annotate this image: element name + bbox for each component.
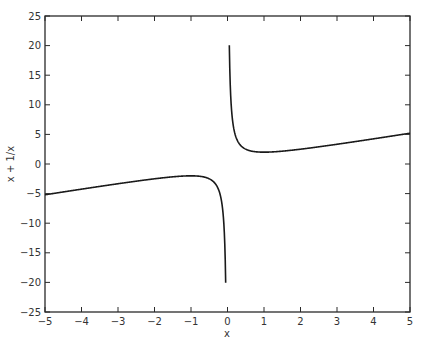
y-tick-label: 0 [35, 159, 41, 170]
plot-area [45, 16, 410, 312]
x-tick-label: 1 [261, 316, 267, 327]
y-axis-label: x + 1/x [5, 146, 16, 182]
x-tick-label: 5 [407, 316, 413, 327]
x-tick-label: 3 [334, 316, 340, 327]
y-tick-label: 15 [28, 70, 41, 81]
y-tick-label: −5 [26, 188, 41, 199]
y-tick-label: 10 [28, 99, 41, 110]
y-tick-label: −20 [20, 277, 41, 288]
x-tick-label: −2 [147, 316, 162, 327]
x-axis-label: x [224, 328, 230, 339]
y-tick-label: −15 [20, 247, 41, 258]
y-tick-label: 20 [28, 40, 41, 51]
y-tick-label: 5 [35, 129, 41, 140]
x-tick-label: −1 [184, 316, 199, 327]
y-tick-label: −10 [20, 218, 41, 229]
x-tick-label: −3 [111, 316, 126, 327]
chart: −5−4−3−2−1012345 −25−20−15−10−5051015202… [0, 0, 424, 350]
curve-line [45, 176, 226, 283]
plot-frame [45, 16, 410, 312]
y-tick-label: 25 [28, 11, 41, 22]
curves [45, 45, 410, 282]
x-tick-label: 0 [224, 316, 230, 327]
x-tick-label: 4 [370, 316, 376, 327]
curve-line [229, 45, 410, 152]
x-tick-label: −4 [74, 316, 89, 327]
x-tick-label: −5 [38, 316, 53, 327]
x-tick-label: 2 [297, 316, 303, 327]
y-axis-ticks: −25−20−15−10−50510152025 [20, 11, 410, 318]
y-tick-label: −25 [20, 307, 41, 318]
